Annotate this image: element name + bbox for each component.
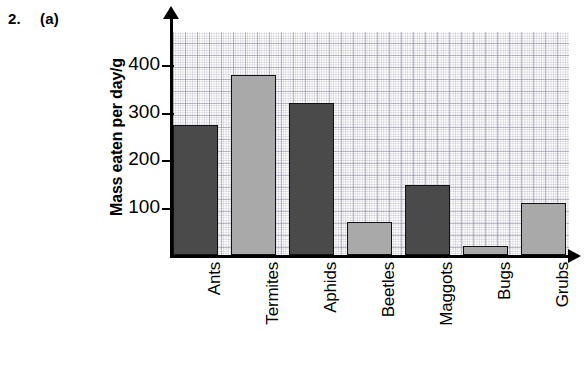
bar-termites (231, 75, 276, 255)
x-axis-arrow-icon (568, 249, 581, 263)
x-axis-line (170, 255, 570, 258)
bar-grubs (521, 203, 566, 255)
bar-beetles (347, 222, 392, 255)
question-number: 2. (8, 10, 21, 27)
y-axis-title: Mass eaten per day/g (108, 12, 126, 262)
bar-aphids (289, 103, 334, 255)
x-axis-label-aphids: Aphids (321, 262, 341, 313)
y-axis-tick-label: 400 (114, 53, 160, 75)
y-axis-tick (162, 160, 174, 162)
x-axis-label-ants: Ants (205, 262, 225, 295)
question-part-label: (a) (40, 10, 59, 27)
bar-bugs (463, 246, 508, 255)
y-axis-tick (162, 208, 174, 210)
y-axis-line (170, 14, 173, 258)
y-axis-tick-label: 200 (114, 148, 160, 170)
y-axis-tick-label: 100 (114, 196, 160, 218)
y-axis-tick (162, 113, 174, 115)
x-axis-label-bugs: Bugs (495, 262, 515, 300)
x-axis-label-termites: Termites (263, 262, 283, 325)
x-axis-label-grubs: Grubs (553, 262, 573, 307)
x-axis-label-beetles: Beetles (379, 262, 399, 317)
y-axis-tick-label: 300 (114, 101, 160, 123)
bars-layer (173, 32, 569, 255)
bar-maggots (405, 185, 450, 255)
y-axis-tick (162, 65, 174, 67)
y-axis-arrow-icon (163, 6, 179, 19)
x-axis-label-maggots: Maggots (437, 262, 457, 326)
chart-page: 2. (a) Mass eaten per day/g 100200300400… (0, 0, 585, 374)
bar-ants (173, 125, 218, 255)
